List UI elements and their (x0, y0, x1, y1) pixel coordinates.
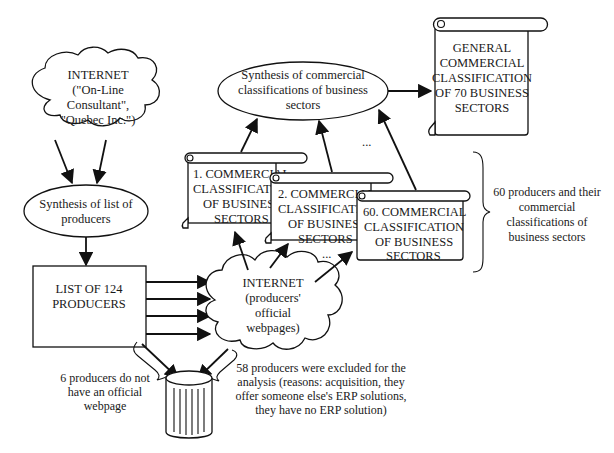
brace-note: 60 producers and their commercial classi… (493, 185, 601, 244)
scroll-1-line-3: SECTORS (214, 212, 269, 226)
list-producers-box: LIST OF 124 PRODUCERS (33, 266, 146, 347)
brace-note-line-2: classifications of (507, 215, 588, 229)
general-classification-scroll: GENERAL COMMERCIAL CLASSIFICATION OF 70 … (429, 18, 548, 135)
no-webpage-note: 6 producers do not have an official webp… (60, 371, 150, 413)
synthesis-classifications-line-0: Synthesis of commercial (241, 68, 365, 82)
synthesis-producers-line-1: producers (61, 212, 110, 226)
general-line-2: CLASSIFICATION (432, 71, 532, 85)
list-producers-line-0: LIST OF 124 (55, 282, 123, 296)
excluded-line-0: 58 producers were excluded for the (236, 361, 406, 375)
trash-bin-icon (166, 371, 212, 438)
brace-note-line-1: commercial (519, 200, 576, 214)
scroll-60-line-3: SECTORS (386, 249, 441, 263)
scroll-60: 60. COMMERCIAL CLASSIFICATION OF BUSINES… (357, 191, 470, 263)
no-webpage-line-1: have an official (68, 385, 143, 399)
right-brace-icon (473, 152, 490, 272)
arrow-scroll-2-to-synthesis (319, 121, 332, 172)
synthesis-classifications-line-1: classifications of business (238, 83, 368, 97)
internet-webpages-cloud: INTERNET (producers' official webpages) (206, 251, 342, 350)
general-line-0: GENERAL (453, 41, 511, 55)
internet-sources-cloud: INTERNET ("On-Line Consultant", "Quebec … (32, 47, 159, 127)
internet-sources-line-1: ("On-Line (72, 83, 124, 97)
internet-webpages-line-0: INTERNET (242, 276, 303, 290)
general-line-1: COMMERCIAL (440, 56, 525, 70)
scroll-2-line-3: SECTORS (298, 232, 353, 246)
internet-sources-line-2: Consultant", (67, 98, 129, 112)
synthesis-producers-ellipse: Synthesis of list of producers (24, 185, 148, 237)
excluded-line-1: analysis (reasons: acquisition, they (237, 375, 404, 389)
arrow-cloud-to-synthesis-right (97, 140, 106, 183)
brace-note-line-0: 60 producers and their (493, 185, 601, 199)
scroll-60-line-0: 60. COMMERCIAL (363, 205, 466, 219)
synthesis-producers-line-0: Synthesis of list of (39, 197, 133, 211)
scroll-60-line-2: OF BUSINESS (375, 235, 453, 249)
general-line-3: OF 70 BUSINESS (435, 86, 529, 100)
internet-webpages-line-3: webpages) (246, 321, 299, 335)
synthesis-classifications-ellipse: Synthesis of commercial classifications … (218, 62, 388, 120)
no-webpage-line-0: 6 producers do not (60, 371, 150, 385)
internet-sources-line-3: "Quebec Inc.") (61, 113, 136, 127)
scroll-2-line-2: OF BUSINESS (288, 217, 366, 231)
arrow-cloud-to-synthesis-left (55, 140, 72, 183)
internet-webpages-line-2: official (255, 306, 291, 320)
excluded-line-2: offer someone else's ERP solutions, (235, 389, 406, 403)
ellipsis-lower: ... (322, 247, 331, 261)
list-producers-line-1: PRODUCERS (52, 297, 126, 311)
process-diagram: INTERNET ("On-Line Consultant", "Quebec … (0, 0, 614, 453)
no-webpage-line-2: webpage (84, 399, 127, 413)
synthesis-classifications-line-2: sectors (286, 98, 321, 112)
scroll-1-line-2: OF BUSINESS (203, 197, 281, 211)
excluded-note: 58 producers were excluded for the analy… (235, 361, 406, 417)
internet-sources-line-0: INTERNET (67, 68, 128, 82)
internet-webpages-line-1: (producers' (245, 291, 301, 305)
excluded-line-3: they have no ERP solution) (255, 403, 387, 417)
arrow-scroll-1-to-synthesis (241, 119, 257, 152)
ellipsis-upper: ... (362, 135, 371, 149)
brace-note-line-3: business sectors (509, 230, 586, 244)
general-line-4: SECTORS (455, 101, 510, 115)
scroll-60-line-1: CLASSIFICATION (364, 220, 464, 234)
